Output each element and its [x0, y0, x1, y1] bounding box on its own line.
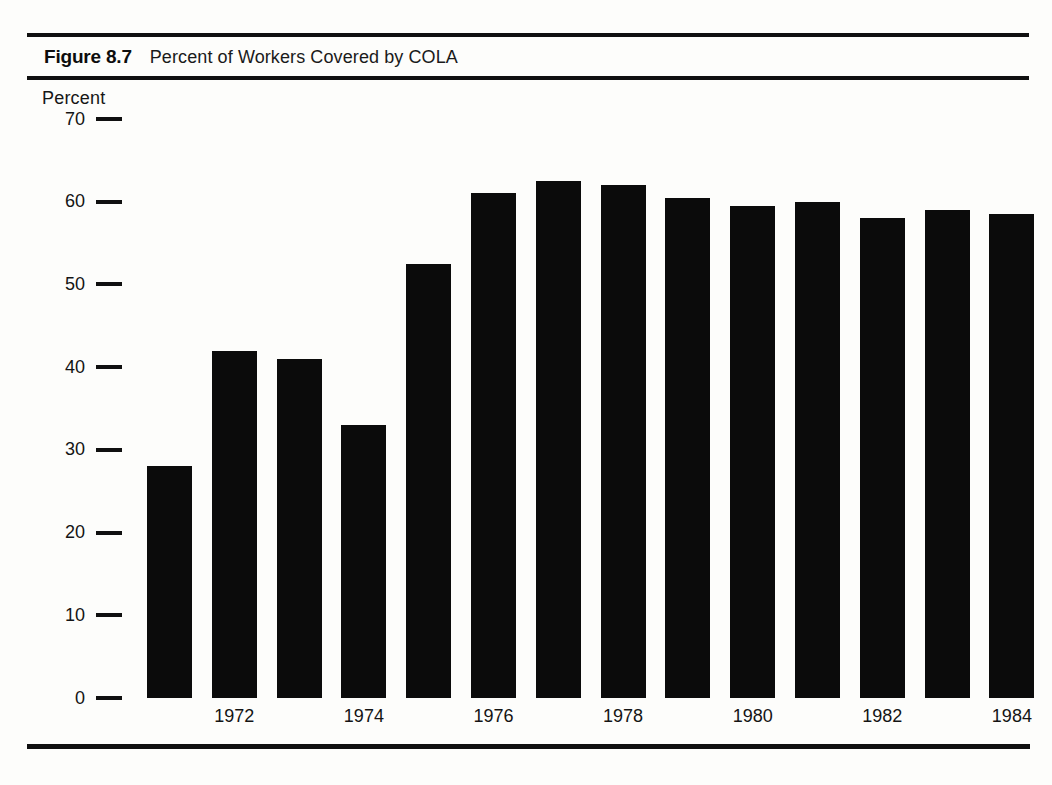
bar: [989, 214, 1034, 698]
bar: [212, 351, 257, 698]
bar-series: [0, 0, 1052, 785]
bar: [406, 264, 451, 698]
x-axis-label: 1980: [723, 706, 783, 727]
x-axis-label: 1972: [204, 706, 264, 727]
bar: [341, 425, 386, 698]
bar: [925, 210, 970, 698]
bar: [601, 185, 646, 698]
bar: [277, 359, 322, 698]
x-axis-label: 1982: [852, 706, 912, 727]
chart-plot-area: 010203040506070 197219741976197819801982…: [0, 0, 1052, 785]
bar: [730, 206, 775, 698]
bar: [795, 202, 840, 698]
x-axis-label: 1974: [334, 706, 394, 727]
bar: [471, 193, 516, 698]
x-axis-label: 1976: [464, 706, 524, 727]
bar: [536, 181, 581, 698]
x-axis-label: 1984: [982, 706, 1042, 727]
bar: [665, 198, 710, 698]
rule-bottom: [27, 744, 1030, 749]
bar: [860, 218, 905, 698]
x-axis-label: 1978: [593, 706, 653, 727]
bar: [147, 466, 192, 698]
figure-page: Figure 8.7 Percent of Workers Covered by…: [0, 0, 1052, 785]
